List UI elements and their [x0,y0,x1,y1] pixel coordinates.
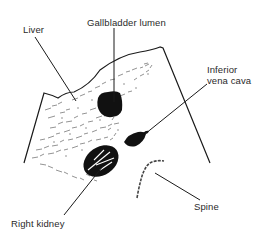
leader-liver [35,37,76,101]
spine-echo-curve [137,161,164,198]
ultrasound-diagram [0,0,264,240]
label-right-kidney: Right kidney [11,218,64,229]
label-liver: Liver [23,24,44,35]
right-kidney-shape [77,139,124,184]
label-gallbladder-lumen: Gallbladder lumen [87,17,166,28]
leader-lines [35,28,207,215]
label-spine: Spine [194,201,219,212]
gallbladder-lumen-shape [97,91,122,117]
label-ivc-line2: vena cava [207,75,251,86]
ivc-shape [124,132,146,147]
leader-ivc [145,84,207,134]
leader-kidney [64,166,103,215]
leader-spine [155,173,200,200]
label-ivc-line1: Inferior [207,64,237,75]
